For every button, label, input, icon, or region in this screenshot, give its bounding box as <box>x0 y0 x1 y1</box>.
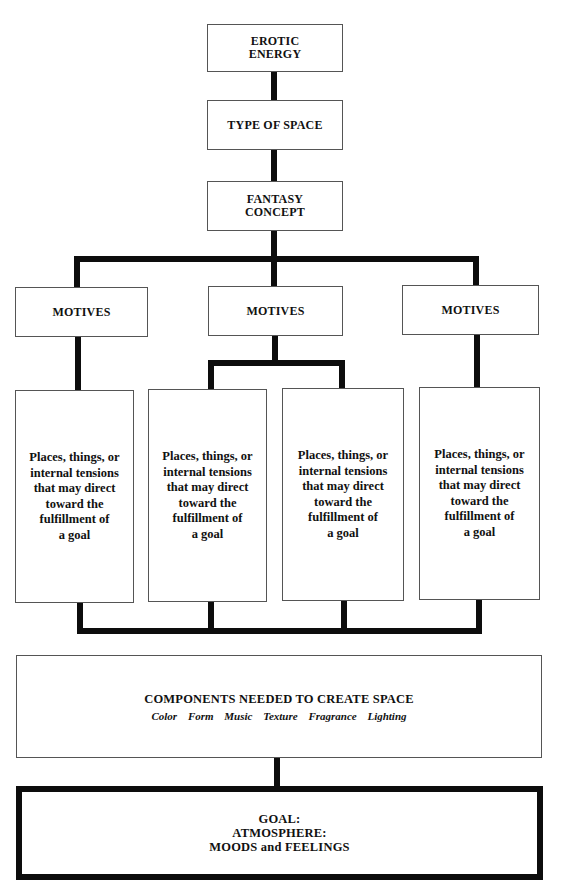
detail-line: fulfillment of <box>173 511 243 527</box>
detail-line: fulfillment of <box>308 510 378 526</box>
erotic-energy-box: EROTIC ENERGY <box>207 24 343 72</box>
fantasy-concept-box: FANTASY CONCEPT <box>207 181 343 231</box>
middle-sub-right-drop <box>339 360 345 388</box>
erotic-energy-line-2: ENERGY <box>249 48 302 61</box>
branch-right-drop <box>473 256 479 286</box>
goal-line-1: GOAL: <box>259 812 301 826</box>
components-items: Color Form Music Texture Fragrance Light… <box>151 710 406 722</box>
component-music: Music <box>224 710 252 722</box>
detail-line: that may direct <box>167 480 249 496</box>
component-texture: Texture <box>263 710 297 722</box>
motives-label: MOTIVES <box>246 305 304 318</box>
connector-middle-motive-down <box>272 336 278 363</box>
detail-line: toward the <box>314 495 372 511</box>
detail-line: a goal <box>464 525 496 541</box>
type-of-space-label: TYPE OF SPACE <box>227 119 322 132</box>
goal-box: GOAL: ATMOSPHERE: MOODS and FEELINGS <box>16 786 543 880</box>
merge-bar <box>77 628 482 634</box>
motives-label: MOTIVES <box>52 306 110 319</box>
component-lighting: Lighting <box>367 710 406 722</box>
detail-line: a goal <box>327 526 359 542</box>
detail-box-1: Places, things, or internal tensions tha… <box>15 390 134 603</box>
middle-sub-branch-bar <box>208 360 345 366</box>
detail-line: fulfillment of <box>445 509 515 525</box>
components-box: COMPONENTS NEEDED TO CREATE SPACE Color … <box>16 655 542 758</box>
connector-left-motive-down <box>75 337 81 390</box>
detail-line: Places, things, or <box>162 449 252 465</box>
detail-line: that may direct <box>439 478 521 494</box>
motives-branch-bar <box>74 256 479 262</box>
connector-space-to-fantasy <box>271 150 277 181</box>
motives-box-left: MOTIVES <box>15 287 148 337</box>
motives-box-middle: MOTIVES <box>208 286 343 336</box>
detail-line: internal tensions <box>299 464 388 480</box>
motives-label: MOTIVES <box>441 304 499 317</box>
detail-line: a goal <box>192 527 224 543</box>
detail-line: that may direct <box>34 481 116 497</box>
detail-box-2: Places, things, or internal tensions tha… <box>148 389 267 602</box>
detail-line: Places, things, or <box>298 448 388 464</box>
connector-energy-to-space <box>271 72 277 100</box>
detail-line: fulfillment of <box>40 512 110 528</box>
detail-line: Places, things, or <box>434 447 524 463</box>
fantasy-concept-line-2: CONCEPT <box>245 206 305 219</box>
detail-line: internal tensions <box>435 463 524 479</box>
connector-components-to-goal <box>274 758 280 788</box>
detail-box-3: Places, things, or internal tensions tha… <box>282 388 404 601</box>
motives-box-right: MOTIVES <box>402 285 539 335</box>
component-color: Color <box>151 710 177 722</box>
type-of-space-box: TYPE OF SPACE <box>207 100 343 150</box>
goal-line-3: MOODS and FEELINGS <box>209 840 349 854</box>
detail-box-4: Places, things, or internal tensions tha… <box>419 387 540 600</box>
detail-line: internal tensions <box>163 465 252 481</box>
connector-right-motive-down <box>474 335 480 387</box>
detail-line: Places, things, or <box>29 450 119 466</box>
component-form: Form <box>188 710 214 722</box>
detail-line: toward the <box>46 497 104 513</box>
detail-line: toward the <box>451 494 509 510</box>
middle-sub-left-drop <box>208 360 214 389</box>
components-title: COMPONENTS NEEDED TO CREATE SPACE <box>144 692 414 707</box>
branch-left-drop <box>74 256 80 287</box>
detail-line: a goal <box>59 528 91 544</box>
detail-line: that may direct <box>302 479 384 495</box>
detail-line: internal tensions <box>30 466 119 482</box>
detail-line: toward the <box>179 496 237 512</box>
goal-line-2: ATMOSPHERE: <box>232 826 326 840</box>
component-fragrance: Fragrance <box>308 710 356 722</box>
